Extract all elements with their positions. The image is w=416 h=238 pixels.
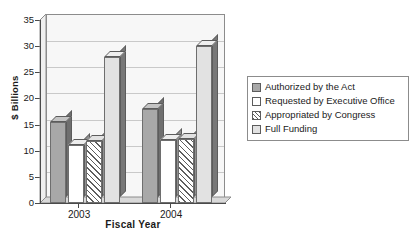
x-axis-line [40,203,226,204]
bar-face [68,145,84,203]
x-axis-tick-mark [78,204,79,208]
bar-2003-series-1 [68,145,84,203]
bar-2004-series-3 [196,46,212,203]
bar-2004-series-0 [142,109,158,203]
bar-2003-series-0 [50,122,66,203]
chart-legend: Authorized by the ActRequested by Execut… [247,76,409,141]
y-axis-tick-label: 25 [12,67,34,77]
y-axis-tick-label: 10 [12,146,34,156]
y-axis-tick-label: 0 [12,198,34,208]
legend-item: Full Funding [252,122,404,136]
legend-item: Authorized by the Act [252,80,404,94]
legend-item: Appropriated by Congress [252,108,404,122]
bar-side-3d [120,45,126,197]
y-axis-tick-label: 35 [12,15,34,25]
y-axis-tick-label: 30 [12,41,34,51]
legend-label: Appropriated by Congress [265,110,375,120]
bar-face [50,122,66,203]
bar-face [178,139,194,203]
x-axis-title: Fiscal Year [38,219,228,230]
bar-face [104,57,120,203]
chart-figure: $ Billions 05101520253035 20032004 Fisca… [0,0,416,238]
bar-2003-series-3 [104,57,120,203]
bar-2004-series-2 [178,139,194,203]
gridline [47,41,224,42]
bar-side-3d [212,34,218,197]
bar-face [196,46,212,203]
legend-label: Full Funding [265,124,317,134]
bar-face [142,109,158,203]
legend-swatch [252,97,261,106]
y-axis-tick-label: 15 [12,120,34,130]
y-axis-tick-labels: 05101520253035 [10,0,34,238]
x-axis-tick-mark [170,204,171,208]
y-axis-tick-label: 5 [12,172,34,182]
bar-2004-series-1 [160,140,176,203]
legend-item: Requested by Executive Office [252,94,404,108]
legend-label: Authorized by the Act [265,82,355,92]
legend-swatch [252,83,261,92]
bar-face [160,140,176,203]
bar-face [86,141,102,203]
legend-swatch [252,111,261,120]
legend-swatch [252,125,261,134]
y-axis-line [40,20,41,204]
legend-label: Requested by Executive Office [265,96,395,106]
bar-2003-series-2 [86,141,102,203]
y-axis-tick-label: 20 [12,93,34,103]
